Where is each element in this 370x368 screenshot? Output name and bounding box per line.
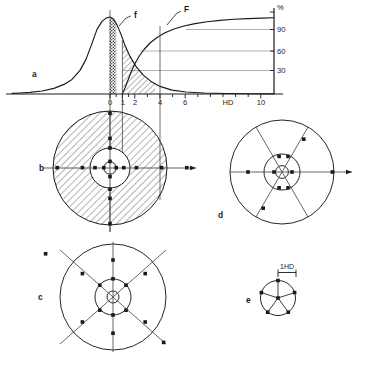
y-tick-60: 60: [277, 47, 285, 56]
x-tick-10: 10: [257, 98, 265, 107]
panel-e-spoke-3: [278, 298, 288, 312]
y-tick-30: 30: [277, 66, 285, 75]
leader-line-f: [119, 16, 131, 26]
scientific-figure: 0 1 2 4 6 HD 10 % 90 60 30 f F a: [0, 0, 370, 368]
x-tick-1: 1: [121, 98, 125, 107]
panel-e-spoke-4: [268, 298, 278, 312]
panel-c: c: [38, 242, 166, 352]
x-tick-4: 4: [158, 98, 162, 107]
x-tick-6: 6: [183, 98, 187, 107]
panel-d-dots: [246, 137, 334, 210]
density-hatched-region: [12, 17, 274, 94]
panel-label-c: c: [38, 292, 43, 302]
curve-label-F: F: [184, 4, 189, 14]
panel-e-spoke-5: [261, 293, 278, 298]
panel-b: b: [39, 111, 196, 232]
figure-root: 0 1 2 4 6 HD 10 % 90 60 30 f F a: [0, 0, 370, 368]
curve-label-f: f: [134, 10, 137, 20]
y-tick-90: 90: [277, 25, 285, 34]
panel-label-b: b: [39, 163, 44, 173]
panel-a-right-tick-labels: % 90 60 30: [277, 3, 285, 75]
leader-line-F: [167, 11, 181, 25]
panel-d-axis-arrowhead: [346, 170, 352, 174]
panel-label-e: e: [246, 295, 251, 305]
y-axis-unit-label: %: [277, 3, 284, 12]
panel-a-x-tick-labels: 0 1 2 4 6 HD 10: [108, 98, 265, 107]
panel-label-d: d: [218, 210, 223, 220]
x-tick-0: 0: [108, 98, 112, 107]
panel-a-gridlines: [122, 30, 274, 71]
panel-d: d: [218, 120, 352, 224]
x-tick-2: 2: [133, 98, 137, 107]
panel-c-dots: [44, 252, 166, 344]
panel-e-spoke-2: [278, 293, 295, 298]
panel-b-axis-arrowhead: [190, 166, 196, 170]
scale-bar-label: 1HD: [280, 263, 294, 270]
x-axis-unit-label: HD: [223, 98, 234, 107]
panel-e: 1HD e: [246, 263, 296, 316]
panel-label-a: a: [32, 69, 37, 79]
panel-e-scale-bar: [278, 270, 296, 278]
